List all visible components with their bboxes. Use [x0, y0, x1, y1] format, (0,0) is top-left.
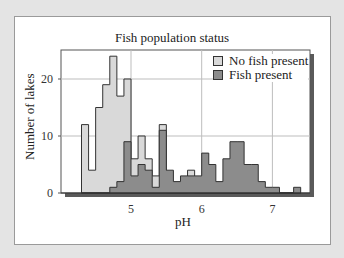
x-tick-label: 7 [269, 202, 275, 216]
legend-label: Fish present [229, 68, 292, 82]
y-tick-label: 10 [41, 129, 53, 143]
legend: No fish present Fish present [213, 54, 308, 82]
legend-swatch-fish [213, 70, 223, 80]
y-tick-label: 0 [47, 186, 53, 200]
x-tick-label: 6 [199, 202, 205, 216]
legend-swatch-no-fish [213, 56, 223, 66]
legend-item-fish: Fish present [213, 68, 308, 82]
histogram-plot: 01020567 [0, 0, 344, 258]
x-axis-label: pH [175, 214, 191, 230]
x-tick-label: 5 [128, 202, 134, 216]
y-axis-label: Number of lakes [22, 73, 38, 160]
y-tick-label: 20 [41, 72, 53, 86]
legend-item-no-fish: No fish present [213, 54, 308, 68]
legend-label: No fish present [229, 54, 308, 68]
